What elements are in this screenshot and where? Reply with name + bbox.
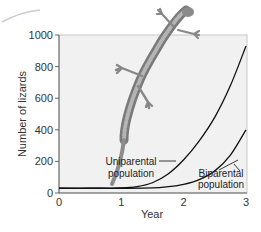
y-tick-label: 400 xyxy=(35,124,53,136)
x-axis-label: Year xyxy=(141,208,164,220)
x-tick-label: 0 xyxy=(56,196,62,208)
annotation-biparental-line1: Biparental xyxy=(198,168,243,179)
x-tick-label: 3 xyxy=(243,196,249,208)
annotation-uniparental-line1: Uniparental xyxy=(105,156,156,167)
y-tick-label: 0 xyxy=(47,187,53,199)
annotation-biparental-line2: population xyxy=(198,179,244,190)
annotation-uniparental-line2: population xyxy=(108,168,154,179)
x-tick-label: 2 xyxy=(181,196,187,208)
chart: 020040060080010000123 Uniparental popula… xyxy=(0,0,261,232)
x-tick-label: 1 xyxy=(118,196,124,208)
y-axis-label: Number of lizards xyxy=(16,70,28,157)
y-tick-label: 1000 xyxy=(29,29,53,41)
y-tick-label: 800 xyxy=(35,61,53,73)
y-tick-label: 600 xyxy=(35,92,53,104)
y-tick-label: 200 xyxy=(35,155,53,167)
decorative-arc xyxy=(2,10,40,22)
